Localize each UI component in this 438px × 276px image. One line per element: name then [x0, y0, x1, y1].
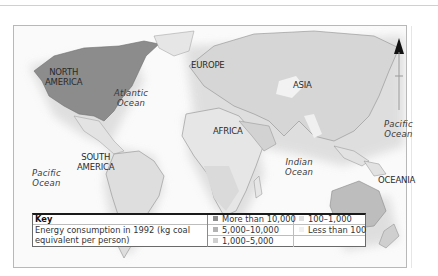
key-item-label: More than 10,000: [222, 214, 296, 224]
map-key: Key Energy consumption in 1992 (kg coal …: [32, 213, 366, 247]
label-africa: AFRICA: [213, 126, 243, 136]
key-item-label: Less than 100: [308, 225, 366, 235]
label-asia: ASIA: [293, 80, 312, 90]
swatch-icon: [213, 238, 218, 243]
label-line: EUROPE: [191, 60, 225, 70]
label-line: AMERICA: [45, 77, 82, 87]
label-indian-ocean: Indian Ocean: [285, 157, 313, 177]
ocean-line: Atlantic: [114, 88, 148, 98]
north-arrow-icon: [392, 38, 406, 112]
label-line: OCEANIA: [378, 175, 415, 185]
swatch-icon: [213, 216, 218, 221]
ocean-line: Ocean: [285, 167, 313, 177]
right-rule: [411, 26, 412, 268]
key-title: Key: [35, 214, 52, 224]
key-item-label: 1,000–5,000: [222, 236, 274, 246]
key-description-line-2: equivalent per person): [35, 235, 130, 245]
key-item-less-than-100: Less than 100: [299, 225, 366, 235]
label-pacific-ocean-east: Pacific Ocean: [384, 119, 413, 139]
label-pacific-ocean-west: Pacific Ocean: [32, 168, 61, 188]
label-south-america: SOUTH AMERICA: [77, 152, 114, 172]
label-line: AMERICA: [77, 162, 114, 172]
swatch-icon: [299, 227, 304, 232]
label-line: AFRICA: [213, 126, 243, 136]
label-oceania: OCEANIA: [378, 175, 415, 185]
label-europe: EUROPE: [191, 60, 225, 70]
key-description-line-1: Energy consumption in 1992 (kg coal: [35, 225, 190, 235]
ocean-line: Indian: [285, 157, 313, 167]
ocean-line: Ocean: [32, 178, 61, 188]
swatch-icon: [299, 216, 304, 221]
key-item-5000-10000: 5,000–10,000: [213, 225, 279, 235]
ocean-line: Pacific: [32, 168, 61, 178]
ocean-line: Ocean: [114, 98, 148, 108]
key-col-divider: [207, 215, 208, 247]
top-rule: [0, 5, 438, 6]
label-atlantic-ocean: Atlantic Ocean: [114, 88, 148, 108]
key-item-label: 100–1,000: [308, 214, 352, 224]
swatch-icon: [213, 227, 218, 232]
ocean-line: Pacific: [384, 119, 413, 129]
key-item-100-1000: 100–1,000: [299, 214, 352, 224]
label-line: NORTH: [45, 67, 82, 77]
key-item-1000-5000: 1,000–5,000: [213, 236, 274, 246]
label-line: ASIA: [293, 80, 312, 90]
label-line: SOUTH: [77, 152, 114, 162]
key-item-label: 5,000–10,000: [222, 225, 279, 235]
key-item-more-than-10000: More than 10,000: [213, 214, 296, 224]
ocean-line: Ocean: [384, 129, 413, 139]
label-north-america: NORTH AMERICA: [45, 67, 82, 87]
